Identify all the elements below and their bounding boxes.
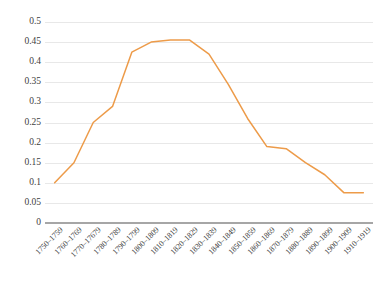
x-axis-line xyxy=(45,222,373,224)
y-axis-tick-label: 0.45 xyxy=(1,37,41,47)
y-axis-tick-label: 0.5 xyxy=(1,17,41,27)
y-axis-tick-label: 0.4 xyxy=(1,57,41,67)
y-axis-tick-labels: 00.050.10.150.20.250.30.350.40.450.5 xyxy=(0,0,41,287)
plot-area xyxy=(45,22,373,223)
series-line-1 xyxy=(55,40,364,193)
x-axis-tick-labels: 1750–17591760–17691770–176791780–1789179… xyxy=(45,226,381,287)
line-chart: 00.050.10.150.20.250.30.350.40.450.5 175… xyxy=(0,0,381,287)
y-axis-tick-label: 0 xyxy=(1,218,41,228)
y-axis-tick-label: 0.05 xyxy=(1,198,41,208)
y-axis-tick-label: 0.15 xyxy=(1,158,41,168)
y-axis-tick-label: 0.35 xyxy=(1,78,41,88)
y-axis-tick-label: 0.2 xyxy=(1,138,41,148)
y-axis-tick-label: 0.1 xyxy=(1,178,41,188)
y-axis-tick-label: 0.3 xyxy=(1,98,41,108)
y-axis-tick-label: 0.25 xyxy=(1,118,41,128)
series-line-group xyxy=(45,22,373,223)
